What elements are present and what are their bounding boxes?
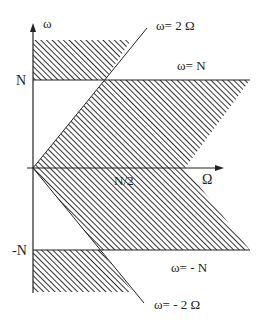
capital-omega-axis-arrow-icon <box>215 165 224 171</box>
label-omega-eq-minus-n: ω= - N <box>171 260 208 275</box>
tick-label-n-half: N/2 <box>114 173 134 188</box>
tick-label-n: N <box>16 73 26 88</box>
omega-axis-arrow-icon <box>30 23 36 32</box>
capital-omega-axis-label: Ω <box>202 172 212 187</box>
omega-axis-label: ω <box>43 16 52 31</box>
hatched-region-top <box>33 40 131 80</box>
hatched-region-center <box>33 80 250 250</box>
frequency-region-diagram: ω Ω N -N N/2 ω= 2 Ω ω= N ω= - N ω= - 2 Ω <box>0 0 264 326</box>
label-omega-eq-2-omega: ω= 2 Ω <box>156 18 195 33</box>
tick-label-minus-n: -N <box>12 243 27 258</box>
label-omega-eq-minus-2-omega: ω= - 2 Ω <box>154 297 200 312</box>
label-omega-eq-n: ω= N <box>177 58 206 73</box>
